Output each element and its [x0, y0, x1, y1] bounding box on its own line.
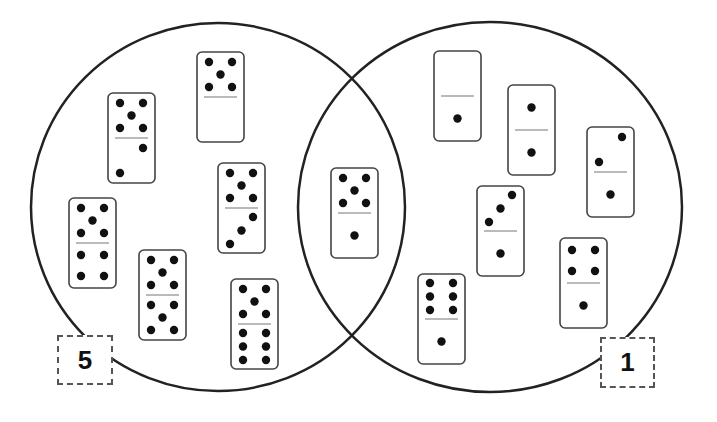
pip: [77, 204, 85, 212]
pip: [453, 114, 461, 122]
pip: [100, 272, 108, 280]
pip: [362, 174, 370, 182]
pip: [226, 240, 234, 248]
domino-2-1: [587, 127, 634, 217]
pip: [262, 329, 270, 337]
pip: [591, 246, 599, 254]
pip: [237, 226, 245, 234]
pip: [579, 301, 587, 309]
pip: [437, 337, 445, 345]
pip: [158, 268, 166, 276]
pip: [339, 199, 347, 207]
pip: [262, 342, 270, 350]
left-set-label: 5: [57, 335, 113, 385]
domino-5-5: [139, 250, 186, 340]
pip: [226, 194, 234, 202]
pip: [496, 204, 504, 212]
domino-5-0: [197, 52, 244, 142]
pip: [350, 186, 358, 194]
domino-1-1: [508, 85, 555, 175]
pip: [262, 356, 270, 364]
pip: [449, 306, 457, 314]
pip: [205, 83, 213, 91]
pip: [116, 124, 124, 132]
pip: [77, 251, 85, 259]
pip: [249, 194, 257, 202]
pip: [147, 301, 155, 309]
pip: [77, 229, 85, 237]
pip: [527, 148, 535, 156]
domino-5-1: [331, 168, 378, 258]
pip: [100, 204, 108, 212]
pip: [228, 83, 236, 91]
pip: [77, 272, 85, 280]
pip: [568, 267, 576, 275]
pip: [249, 213, 257, 221]
domino-0-1: [434, 51, 481, 141]
pip: [116, 169, 124, 177]
left-set-label-text: 5: [78, 345, 92, 376]
pip: [88, 216, 96, 224]
pip: [239, 329, 247, 337]
pip: [426, 306, 434, 314]
pip: [239, 356, 247, 364]
pip: [239, 342, 247, 350]
pip: [226, 169, 234, 177]
pip: [508, 191, 516, 199]
pip: [239, 285, 247, 293]
pip: [449, 279, 457, 287]
pip: [147, 281, 155, 289]
domino-5-3: [218, 163, 265, 253]
pip: [496, 249, 504, 257]
pip: [339, 174, 347, 182]
pip: [595, 158, 603, 166]
pip: [362, 199, 370, 207]
pip: [606, 190, 614, 198]
pip: [170, 326, 178, 334]
pip: [170, 281, 178, 289]
domino-5-4: [69, 198, 116, 288]
pip: [485, 218, 493, 226]
pip: [527, 103, 535, 111]
pip: [237, 181, 245, 189]
right-set-label-text: 1: [620, 347, 634, 378]
pip: [216, 70, 224, 78]
pip: [100, 251, 108, 259]
pip: [618, 133, 626, 141]
pip: [170, 301, 178, 309]
pip: [239, 310, 247, 318]
pip: [249, 169, 257, 177]
pip: [147, 256, 155, 264]
pip: [127, 111, 135, 119]
pip: [250, 297, 258, 305]
domino-5-6: [231, 279, 278, 369]
pip: [426, 279, 434, 287]
pip: [228, 58, 236, 66]
domino-6-1: [418, 274, 465, 364]
pip: [147, 326, 155, 334]
pip: [100, 229, 108, 237]
pip: [139, 124, 147, 132]
pip: [591, 267, 599, 275]
pip: [426, 292, 434, 300]
pip: [116, 99, 124, 107]
pip: [262, 310, 270, 318]
domino-3-1: [477, 186, 524, 276]
pip: [139, 99, 147, 107]
pip: [449, 292, 457, 300]
pip: [568, 246, 576, 254]
pip: [170, 256, 178, 264]
pip: [158, 313, 166, 321]
pip: [139, 144, 147, 152]
pip: [205, 58, 213, 66]
domino-4-1: [560, 238, 607, 328]
right-set-label: 1: [600, 337, 655, 388]
pip: [262, 285, 270, 293]
domino-5-2: [108, 93, 155, 183]
pip: [350, 231, 358, 239]
